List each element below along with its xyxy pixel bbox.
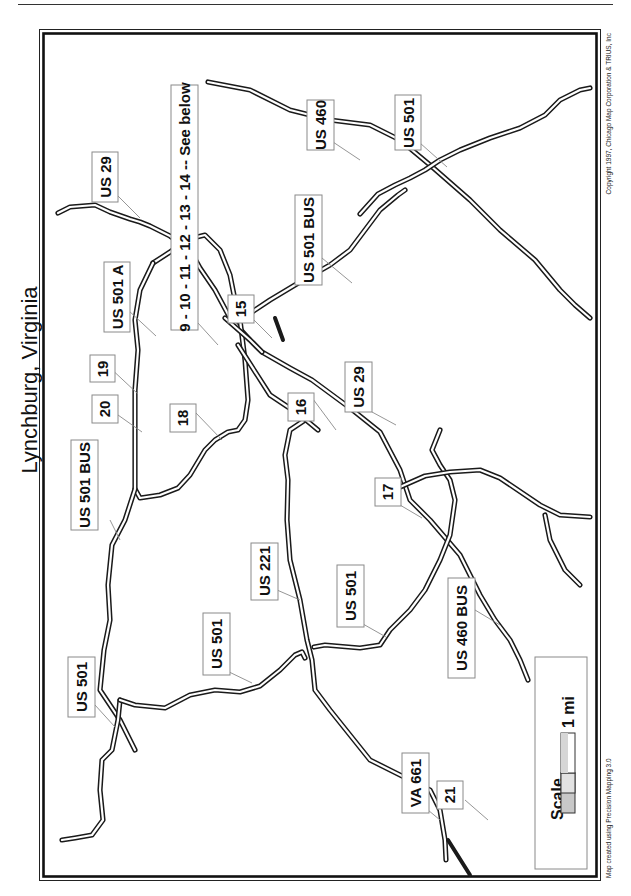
svg-text:9 - 10 - 11 - 12 - 13 - 14 --: 9 - 10 - 11 - 12 - 13 - 14 -- See below <box>176 82 193 332</box>
svg-text:US 221: US 221 <box>256 546 273 596</box>
scale-distance: 1 mi <box>560 696 577 728</box>
svg-text:20: 20 <box>96 401 113 418</box>
label-us501-mid: US 501 <box>337 565 386 637</box>
label-us460-east: US 460 <box>307 100 360 160</box>
svg-text:VA 661: VA 661 <box>407 759 424 807</box>
road-cross-17 <box>400 470 590 517</box>
svg-text:US 460: US 460 <box>312 100 329 150</box>
roads <box>58 82 590 875</box>
scale-bar <box>561 733 575 813</box>
road-15-solid <box>275 318 283 340</box>
svg-text:18: 18 <box>174 410 191 427</box>
svg-text:19: 19 <box>94 361 111 378</box>
label-exit-19: 19 <box>90 355 138 394</box>
label-us460bus: US 460 BUS <box>448 578 500 678</box>
label-exit-21: 21 <box>437 781 488 820</box>
map-canvas: Lynchburg, Virginia Copyright 1997, Chic… <box>0 0 631 896</box>
svg-text:17: 17 <box>379 484 396 501</box>
svg-text:US 501 A: US 501 A <box>109 265 126 330</box>
svg-text:US 501: US 501 <box>342 571 359 621</box>
label-exit-17: 17 <box>375 478 422 518</box>
road-us460bus <box>545 515 580 585</box>
label-exit-18: 18 <box>170 404 222 440</box>
svg-text:21: 21 <box>441 787 458 804</box>
credit-note: Map created using Precision Mapping 3.0 <box>605 758 613 878</box>
svg-text:16: 16 <box>292 399 309 416</box>
svg-text:US 29: US 29 <box>97 156 114 198</box>
svg-text:US 501: US 501 <box>208 619 225 669</box>
map-frame <box>40 30 601 881</box>
svg-text:15: 15 <box>232 301 249 318</box>
scale-legend: Scale 1 mi <box>535 657 587 869</box>
label-va661: VA 661 <box>402 753 440 820</box>
label-us501-center: US 501 <box>203 613 252 683</box>
svg-text:US 501 BUS: US 501 BUS <box>300 197 317 283</box>
svg-text:US 501 BUS: US 501 BUS <box>76 442 93 528</box>
label-us501-west: US 501 <box>68 657 115 727</box>
label-us29-south: US 29 <box>345 362 396 425</box>
copyright-note: Copyright 1997, Chicago Map Corporation … <box>605 32 613 194</box>
svg-text:US 29: US 29 <box>350 366 367 408</box>
road-21-solid <box>448 840 470 875</box>
road-us501-west <box>62 700 120 840</box>
map-title: Lynchburg, Virginia <box>17 286 42 474</box>
svg-text:US 501: US 501 <box>73 662 90 712</box>
road-us501-center <box>314 430 455 648</box>
road-us501bus-west <box>100 263 153 750</box>
svg-text:US 501: US 501 <box>400 98 417 148</box>
label-exits-9-14: 9 - 10 - 11 - 12 - 13 - 14 -- See below <box>171 82 218 345</box>
label-us501bus-west: US 501 BUS <box>71 440 120 540</box>
svg-text:US 460 BUS: US 460 BUS <box>453 585 470 671</box>
